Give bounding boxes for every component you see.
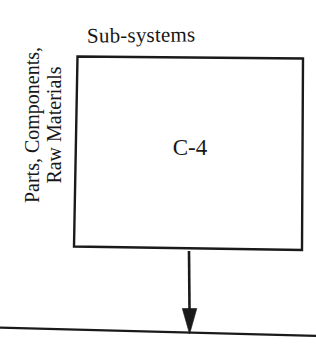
- side-label: Parts, Components, Raw Materials: [21, 17, 79, 233]
- baseline-rule: [0, 328, 316, 337]
- side-label-line-2: Raw Materials: [43, 17, 65, 233]
- process-box-label: C-4: [78, 136, 302, 159]
- top-label-text: Sub-systems: [87, 24, 196, 46]
- side-label-line-1: Parts, Components,: [21, 17, 43, 233]
- diagram-canvas: Sub-systems Parts, Components, Raw Mater…: [0, 0, 316, 347]
- output-arrow-shaft: [189, 251, 190, 309]
- output-arrow-head: [182, 309, 197, 335]
